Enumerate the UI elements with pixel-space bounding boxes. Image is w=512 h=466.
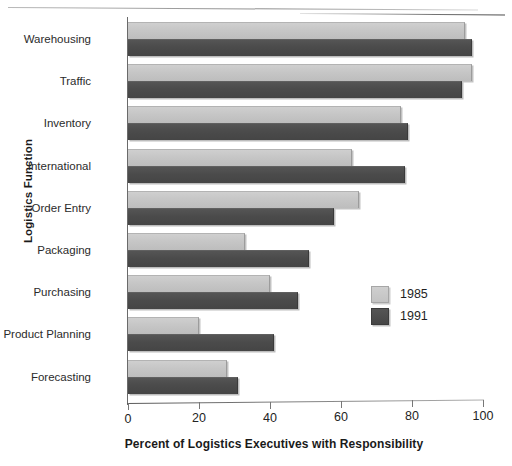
x-tick-40 (270, 402, 271, 409)
bar-1985-order-entry (128, 191, 359, 208)
bar-group: Packaging (128, 233, 483, 267)
bar-row (128, 39, 483, 56)
category-label-product-planning: Product Planning (0, 328, 91, 340)
bar-row (128, 334, 483, 351)
top-rule-decoration-secondary (300, 13, 505, 15)
category-label-international: International (0, 160, 91, 172)
bar-row (128, 123, 483, 140)
bar-group: Traffic (128, 64, 483, 98)
bar-row (128, 208, 483, 225)
bar-1985-purchasing (128, 275, 270, 292)
bar-1985-packaging (128, 233, 245, 250)
x-tick-label-80: 80 (392, 409, 432, 423)
legend-label-1985: 1985 (400, 287, 428, 301)
bar-row (128, 64, 483, 81)
bar-1991-purchasing (128, 292, 298, 309)
bar-row (128, 377, 483, 394)
bar-1991-order-entry (128, 208, 334, 225)
bar-row (128, 106, 483, 123)
bar-row (128, 149, 483, 166)
category-label-traffic: Traffic (0, 75, 91, 87)
bar-row (128, 317, 483, 334)
bar-1985-international (128, 149, 352, 166)
bar-row (128, 275, 483, 292)
bar-row (128, 191, 483, 208)
bar-1985-product-planning (128, 317, 199, 334)
chart-legend: 1985 1991 (371, 283, 428, 327)
bar-group: International (128, 149, 483, 183)
bar-1991-product-planning (128, 334, 274, 351)
x-tick-100 (483, 400, 484, 407)
bar-group: Warehousing (128, 22, 483, 56)
bar-1991-inventory (128, 123, 408, 140)
legend-entry-1985: 1985 (371, 283, 428, 305)
bar-row (128, 250, 483, 267)
category-label-order-entry: Order Entry (0, 202, 91, 214)
legend-entry-1991: 1991 (371, 305, 428, 327)
category-label-inventory: Inventory (0, 117, 91, 129)
bar-row (128, 292, 483, 309)
bar-row (128, 233, 483, 250)
x-tick-label-20: 20 (179, 411, 219, 425)
x-tick-60 (341, 401, 342, 408)
bar-chart-figure: Logistics Function WarehousingTrafficInv… (0, 0, 512, 466)
bar-group: Inventory (128, 106, 483, 140)
bar-group: Forecasting (128, 360, 483, 394)
bar-1991-packaging (128, 250, 309, 267)
x-tick-label-0: 0 (108, 412, 148, 426)
bar-group: Purchasing (128, 275, 483, 309)
legend-swatch-1991 (371, 308, 389, 325)
legend-swatch-1985 (371, 286, 389, 303)
category-label-warehousing: Warehousing (0, 33, 91, 45)
x-tick-label-60: 60 (321, 410, 361, 424)
bar-1985-inventory (128, 106, 401, 123)
legend-label-1991: 1991 (400, 309, 428, 323)
x-tick-80 (412, 400, 413, 407)
x-tick-label-100: 100 (463, 409, 503, 423)
bar-1991-international (128, 166, 405, 183)
bar-1985-warehousing (128, 22, 465, 39)
category-label-purchasing: Purchasing (0, 286, 91, 298)
category-label-packaging: Packaging (0, 244, 91, 256)
bar-group: Order Entry (128, 191, 483, 225)
x-tick-20 (199, 402, 200, 409)
top-rule-decoration (8, 7, 478, 11)
x-tick-label-40: 40 (250, 411, 290, 425)
x-tick-0 (128, 403, 129, 410)
bar-row (128, 81, 483, 98)
plot-area: WarehousingTrafficInventoryInternational… (128, 18, 483, 402)
bar-1991-forecasting (128, 377, 238, 394)
x-axis-title: Percent of Logistics Executives with Res… (0, 437, 512, 451)
bar-row (128, 166, 483, 183)
bar-1985-traffic (128, 64, 472, 81)
bar-1991-warehousing (128, 39, 472, 56)
bar-row (128, 22, 483, 39)
bar-row (128, 360, 483, 377)
bar-group: Product Planning (128, 317, 483, 351)
bar-1985-forecasting (128, 360, 227, 377)
bar-1991-traffic (128, 81, 462, 98)
category-label-forecasting: Forecasting (0, 371, 91, 383)
